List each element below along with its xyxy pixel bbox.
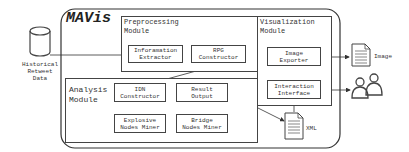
explosive-nodes-miner-box: Explosive Nodes Miner: [114, 114, 166, 133]
idn-constructor-box: IDN Constructor: [114, 83, 166, 102]
preprocessing-module-title: Preprocessing Module: [124, 18, 179, 36]
xml-document-icon: [285, 113, 303, 139]
data-source-label: Historical Retweet Data: [14, 61, 66, 82]
information-extractor-box: Inforamation Extractor: [128, 45, 183, 63]
image-exporter-box: Image Exporter: [267, 47, 321, 66]
database-icon: [30, 27, 50, 56]
users-icon: [352, 74, 382, 98]
image-output-label: Image: [374, 53, 392, 60]
result-output-box: Result Output: [176, 83, 228, 102]
image-document-icon: [352, 44, 370, 66]
rpg-constructor-box: RPG Constructor: [191, 45, 246, 63]
bridge-nodes-miner-box: Bridge Nodes Miner: [176, 114, 228, 133]
visualization-module-title: Visualization Module: [260, 18, 315, 36]
system-title: MAVis: [66, 10, 111, 27]
interaction-interface-box: Interaction Interface: [267, 80, 321, 99]
analysis-module-title: Analysis Module: [69, 85, 107, 105]
xml-file-label: XML: [306, 125, 317, 132]
